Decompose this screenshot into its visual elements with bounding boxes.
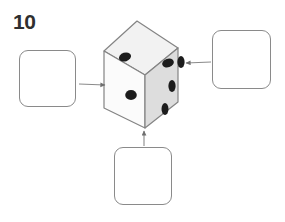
arrow-right-to-cube (186, 62, 211, 63)
answer-box-right[interactable] (212, 30, 271, 89)
worksheet-page: 10 (0, 0, 285, 222)
arrow-left-to-cube (79, 84, 105, 85)
answer-box-bottom[interactable] (114, 147, 172, 205)
answer-box-left[interactable] (19, 50, 76, 107)
